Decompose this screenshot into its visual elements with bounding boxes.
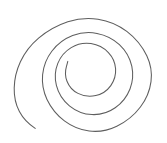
canvas-background [0,0,167,143]
drawing-canvas [0,0,167,143]
spiral-drawing-svg [0,0,167,143]
